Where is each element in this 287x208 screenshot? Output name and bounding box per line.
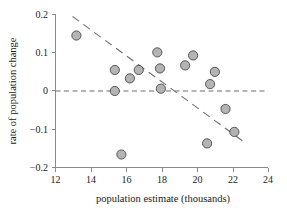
x-tick-label: 16: [122, 174, 132, 185]
x-tick-label: 14: [86, 174, 96, 185]
y-axis-ticks: [52, 15, 56, 168]
data-point: [72, 31, 81, 40]
y-axis-title: rate of population change: [7, 37, 18, 144]
data-point: [155, 64, 164, 73]
y-axis-tick-labels: 0.2 0.1 0 −0.1 −0.2: [30, 9, 48, 173]
data-point: [156, 84, 165, 93]
data-point: [134, 65, 143, 74]
x-tick-label: 18: [157, 174, 167, 185]
y-tick-label: −0.1: [30, 124, 48, 135]
x-tick-label: 22: [228, 174, 238, 185]
data-point: [110, 86, 119, 95]
x-tick-label: 24: [263, 174, 273, 185]
data-point: [117, 150, 126, 159]
x-tick-label: 12: [51, 174, 61, 185]
data-point: [202, 139, 211, 148]
data-point: [210, 67, 219, 76]
x-axis-tick-labels: 12 14 16 18 20 22 24: [51, 174, 274, 185]
y-tick-label: 0: [43, 85, 48, 96]
data-point: [125, 74, 134, 83]
x-tick-label: 20: [193, 174, 203, 185]
data-point: [181, 61, 190, 70]
x-axis-title: population estimate (thousands): [96, 193, 231, 205]
data-point: [153, 48, 162, 57]
data-points-layer: [72, 31, 239, 159]
data-point: [230, 127, 239, 136]
data-point: [110, 65, 119, 74]
y-tick-label: 0.2: [36, 9, 49, 20]
data-point: [188, 51, 197, 60]
data-point: [221, 104, 230, 113]
x-axis-ticks: [56, 168, 269, 172]
scatter-plot-figure: 0.2 0.1 0 −0.1 −0.2 12 14 16 18 20 22 24: [0, 0, 287, 208]
plot-canvas: 0.2 0.1 0 −0.1 −0.2 12 14 16 18 20 22 24: [0, 0, 287, 208]
y-tick-label: −0.2: [30, 162, 48, 173]
y-tick-label: 0.1: [36, 47, 49, 58]
trend-line: [73, 16, 243, 140]
data-point: [205, 80, 214, 89]
